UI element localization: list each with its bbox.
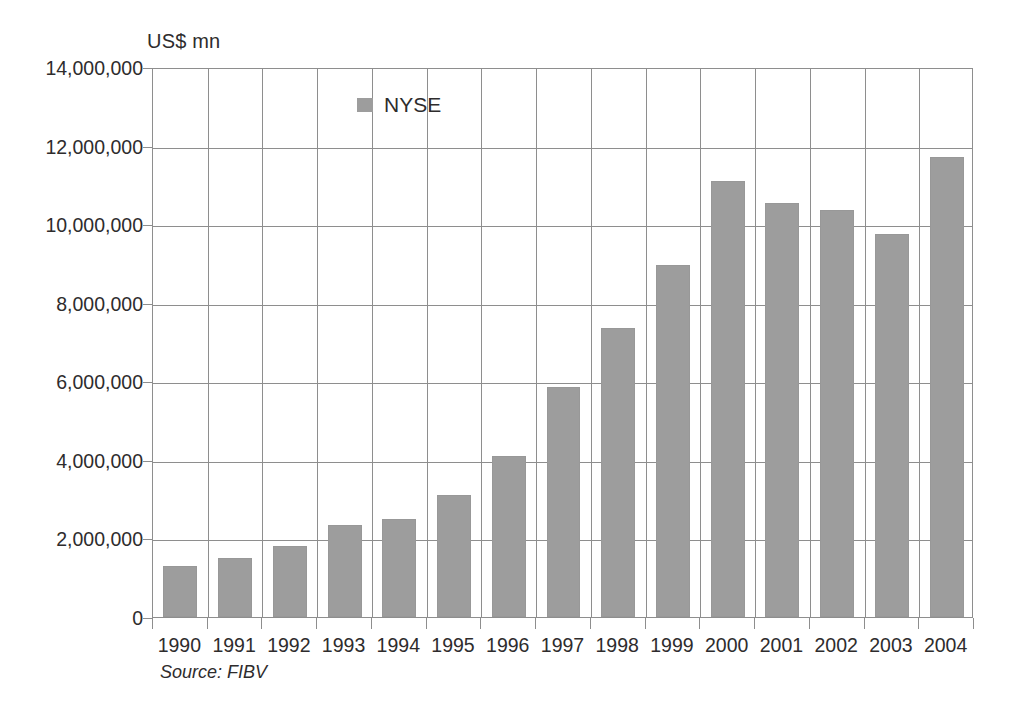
bar (820, 210, 854, 617)
y-axis-tick-mark (143, 382, 152, 383)
x-axis-tick-mark (699, 618, 700, 629)
x-axis-tick-mark-group (152, 618, 973, 629)
y-axis-tick-mark-group (0, 68, 152, 618)
x-axis-tick-mark (864, 618, 865, 629)
x-axis-tick-label: 1991 (212, 634, 255, 657)
bar (656, 265, 690, 617)
bar (930, 157, 964, 617)
x-axis-tick-label: 1996 (486, 634, 529, 657)
x-axis-tick-mark (480, 618, 481, 629)
y-axis-tick-mark (143, 618, 152, 619)
x-axis-tick-label: 1994 (377, 634, 420, 657)
y-axis-tick-mark (143, 225, 152, 226)
chart-figure: US$ mn 14,000,00012,000,00010,000,0008,0… (0, 0, 1018, 711)
bar (437, 495, 471, 617)
bar (382, 519, 416, 617)
x-axis-tick-mark (316, 618, 317, 629)
legend-swatch-nyse (357, 98, 373, 112)
x-axis-tick-label: 1993 (322, 634, 365, 657)
x-axis-tick-mark (535, 618, 536, 629)
bar (875, 234, 909, 617)
source-note: Source: FIBV (160, 662, 267, 683)
x-axis-tick-label: 1998 (596, 634, 639, 657)
x-axis-tick-label: 2001 (760, 634, 803, 657)
y-axis-tick-mark (143, 304, 152, 305)
x-axis-tick-label: 1992 (267, 634, 310, 657)
y-axis-unit-label: US$ mn (147, 30, 220, 53)
bar (273, 546, 307, 617)
bar (547, 387, 581, 617)
bar (601, 328, 635, 617)
y-axis-tick-mark (143, 68, 152, 69)
x-axis-tick-mark (809, 618, 810, 629)
x-axis-tick-mark (754, 618, 755, 629)
y-axis-tick-mark (143, 539, 152, 540)
bar (218, 558, 252, 617)
x-axis-tick-mark (590, 618, 591, 629)
x-axis-tick-mark (918, 618, 919, 629)
x-axis-tick-label-group: 1990199119921993199419951996199719981999… (152, 634, 973, 660)
x-axis-tick-label: 1999 (650, 634, 693, 657)
bar (492, 456, 526, 617)
x-axis-tick-mark (207, 618, 208, 629)
bar (765, 203, 799, 617)
x-axis-tick-mark (426, 618, 427, 629)
x-axis-tick-mark (261, 618, 262, 629)
bar (711, 181, 745, 617)
bar-series-nyse (153, 69, 972, 617)
x-axis-tick-label: 2003 (869, 634, 912, 657)
x-axis-tick-label: 2002 (814, 634, 857, 657)
x-axis-tick-label: 2000 (705, 634, 748, 657)
legend-label-nyse: NYSE (384, 94, 441, 115)
x-axis-tick-mark (371, 618, 372, 629)
x-axis-tick-mark (152, 618, 153, 629)
x-axis-tick-label: 2004 (924, 634, 967, 657)
bar (163, 566, 197, 617)
bar (328, 525, 362, 617)
x-axis-tick-mark (973, 618, 974, 629)
legend: NYSE (357, 94, 441, 115)
y-axis-tick-mark (143, 461, 152, 462)
y-axis-tick-mark (143, 147, 152, 148)
plot-area (152, 68, 973, 618)
x-axis-tick-mark (645, 618, 646, 629)
x-axis-tick-label: 1990 (158, 634, 201, 657)
x-axis-tick-label: 1997 (541, 634, 584, 657)
x-axis-tick-label: 1995 (431, 634, 474, 657)
